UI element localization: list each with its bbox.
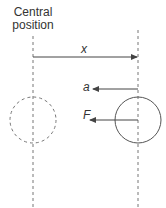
a-label: a bbox=[83, 80, 90, 94]
x-label: x bbox=[81, 42, 87, 56]
diagram bbox=[0, 0, 166, 208]
F-label: F bbox=[83, 108, 90, 122]
